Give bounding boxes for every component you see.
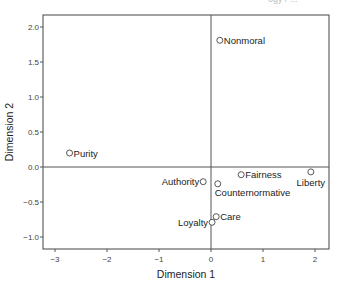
x-tick-label: −1 xyxy=(154,255,164,264)
x-axis-title: Dimension 1 xyxy=(157,268,216,280)
x-axis-ticks: −3−2−1012 xyxy=(50,249,317,264)
data-point-purity: Purity xyxy=(67,148,99,159)
data-point-liberty: Liberty xyxy=(297,169,326,188)
open-circle-marker-icon xyxy=(238,172,244,178)
y-tick-label: 2.0 xyxy=(28,23,40,32)
plot-border xyxy=(43,15,329,249)
x-tick-label: 2 xyxy=(313,255,318,264)
y-tick-label: −0.5 xyxy=(23,198,39,207)
data-point-authority: Authority xyxy=(162,176,207,187)
x-tick-label: −3 xyxy=(50,255,60,264)
point-label: Care xyxy=(220,211,241,222)
data-point-counternormative: Counternormative xyxy=(215,181,291,198)
open-circle-marker-icon xyxy=(308,169,314,175)
data-point-loyalty: Loyalty xyxy=(178,217,215,228)
y-axis-title: Dimension 2 xyxy=(3,103,15,162)
scatter-chart: −3−2−1012 −1.0−0.50.00.51.01.52.0 Nonmor… xyxy=(0,0,342,288)
reference-lines xyxy=(43,15,329,249)
open-circle-marker-icon xyxy=(209,219,215,225)
open-circle-marker-icon xyxy=(200,179,206,185)
data-point-nonmoral: Nonmoral xyxy=(217,35,265,46)
plot-frame xyxy=(43,15,329,249)
x-tick-label: 0 xyxy=(209,255,214,264)
data-points: NonmoralPurityAuthorityCounternormativeF… xyxy=(67,35,326,228)
open-circle-marker-icon xyxy=(213,214,219,220)
point-label: Fairness xyxy=(245,169,282,180)
point-label: Liberty xyxy=(297,177,326,188)
point-label: Counternormative xyxy=(215,187,291,198)
y-tick-label: −1.0 xyxy=(23,233,39,242)
point-label: Authority xyxy=(162,176,200,187)
open-circle-marker-icon xyxy=(217,37,223,43)
point-label: Purity xyxy=(74,148,99,159)
point-label: Nonmoral xyxy=(224,35,265,46)
data-point-fairness: Fairness xyxy=(238,169,282,180)
y-tick-label: 0.0 xyxy=(28,163,40,172)
x-tick-label: −2 xyxy=(102,255,112,264)
y-tick-label: 1.0 xyxy=(28,93,40,102)
point-label: Loyalty xyxy=(178,217,208,228)
y-tick-label: 0.5 xyxy=(28,128,40,137)
y-tick-label: 1.5 xyxy=(28,58,40,67)
y-axis-ticks: −1.0−0.50.00.51.01.52.0 xyxy=(23,23,43,242)
data-point-care: Care xyxy=(213,211,241,222)
open-circle-marker-icon xyxy=(67,150,73,156)
x-tick-label: 1 xyxy=(261,255,266,264)
